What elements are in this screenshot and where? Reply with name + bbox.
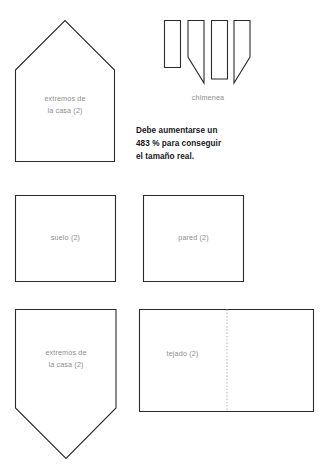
piece-house-end-bottom-label-line2: la casa (2) — [48, 360, 83, 369]
chimney-strip-3 — [212, 21, 228, 80]
piece-chimney-label: chimenea — [163, 92, 253, 104]
piece-house-end-top — [14, 19, 116, 163]
piece-house-end-top-label-line2: la casa (2) — [47, 106, 82, 115]
piece-chimney — [163, 19, 253, 85]
scale-note-line1: Debe aumentarse un — [136, 124, 221, 137]
chimney-outline — [163, 19, 253, 85]
piece-floor-label: suelo (2) — [14, 232, 117, 244]
scale-note-line2: 483 % para conseguir — [136, 137, 221, 150]
piece-house-end-top-label: extremos de la casa (2) — [14, 93, 116, 116]
house-end-bottom-outline — [14, 308, 118, 460]
piece-house-end-bottom-label-line1: extremos de — [45, 348, 86, 357]
template-sheet: extremos de la casa (2) chimenea Debe au… — [0, 0, 328, 472]
piece-roof-label: tejado (2) — [138, 348, 227, 360]
piece-house-end-top-label-line1: extremos de — [44, 94, 85, 103]
roof-outline — [138, 308, 315, 415]
piece-roof — [138, 308, 315, 415]
chimney-strip-1 — [165, 21, 181, 68]
chimney-strip-2 — [188, 21, 204, 84]
scale-note: Debe aumentarse un 483 % para conseguir … — [136, 124, 221, 164]
house-end-top-outline — [14, 19, 116, 163]
piece-house-end-bottom — [14, 308, 118, 460]
piece-house-end-bottom-label: extremos de la casa (2) — [14, 347, 118, 370]
scale-note-line3: el tamaño real. — [136, 150, 221, 163]
chimney-strip-4 — [234, 21, 250, 84]
piece-wall-label: pared (2) — [142, 232, 245, 244]
